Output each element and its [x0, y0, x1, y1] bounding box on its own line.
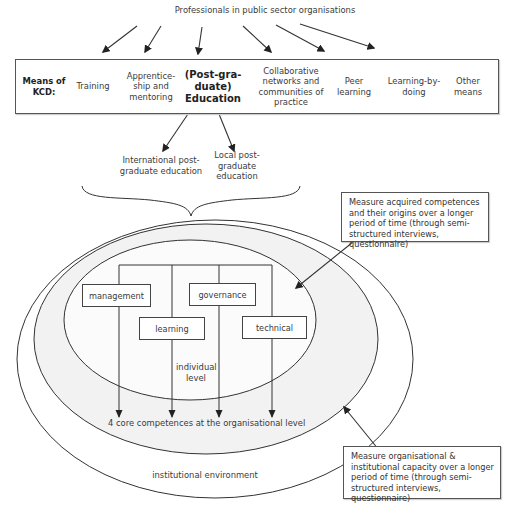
kcd-mean-training: Training — [69, 60, 117, 113]
competence-management: management — [82, 284, 151, 307]
local-education-label: Local post-graduate education — [210, 150, 264, 182]
individual-level-label: individual level — [176, 362, 216, 383]
kcd-mean-postgraduate-education: (Post-gra-duate) Education — [184, 60, 242, 113]
kcd-mean-other-means: Other means — [450, 60, 486, 113]
education-arrows — [163, 114, 234, 151]
competence-technical: technical — [242, 316, 307, 339]
curly-brace-icon — [82, 186, 300, 216]
kcd-heading: Means of KCD: — [22, 60, 66, 113]
kcd-mean-apprenticeship: Apprentice-ship and mentoring — [124, 60, 178, 113]
professionals-label: Professionals in public sector organisat… — [150, 5, 380, 16]
competence-learning: learning — [139, 317, 205, 340]
institutional-environment-label: institutional environment — [150, 470, 260, 481]
means-of-kcd-box: Means of KCD: Training Apprentice-ship a… — [15, 59, 499, 114]
international-education-label: International post-graduate education — [117, 155, 205, 176]
organisational-level-label: 4 core competences at the organisational… — [108, 418, 308, 429]
competence-governance: governance — [189, 283, 256, 306]
individual-measure-note: Measure acquired competences and their o… — [341, 192, 489, 242]
kcd-mean-collaborative-networks: Collaborative networks and communities o… — [252, 60, 330, 113]
kcd-mean-learning-by-doing: Learning-by-doing — [386, 60, 442, 113]
kcd-mean-peer-learning: Peer learning — [334, 60, 374, 113]
professional-arrows — [103, 24, 374, 54]
organisational-measure-note: Measure organisational & institutional c… — [343, 446, 501, 499]
